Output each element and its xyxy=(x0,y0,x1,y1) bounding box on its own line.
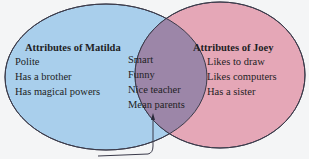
intersection-item: Funny xyxy=(128,68,155,81)
set-joey-item: Likes to draw xyxy=(207,55,265,68)
intersection-item: Smart xyxy=(128,53,153,66)
set-matilda-item: Has a brother xyxy=(15,70,72,83)
set-matilda-item: Polite xyxy=(15,55,40,68)
intersection-item: Nice teacher xyxy=(128,83,181,96)
set-joey-item: Likes computers xyxy=(207,70,277,83)
intersection-item: Mean parents xyxy=(128,98,185,111)
set-joey-title: Attributes of Joey xyxy=(193,41,273,54)
set-matilda-title: Attributes of Matilda xyxy=(25,41,121,54)
set-joey-item: Has a sister xyxy=(207,85,255,98)
set-matilda-item: Has magical powers xyxy=(15,85,100,98)
